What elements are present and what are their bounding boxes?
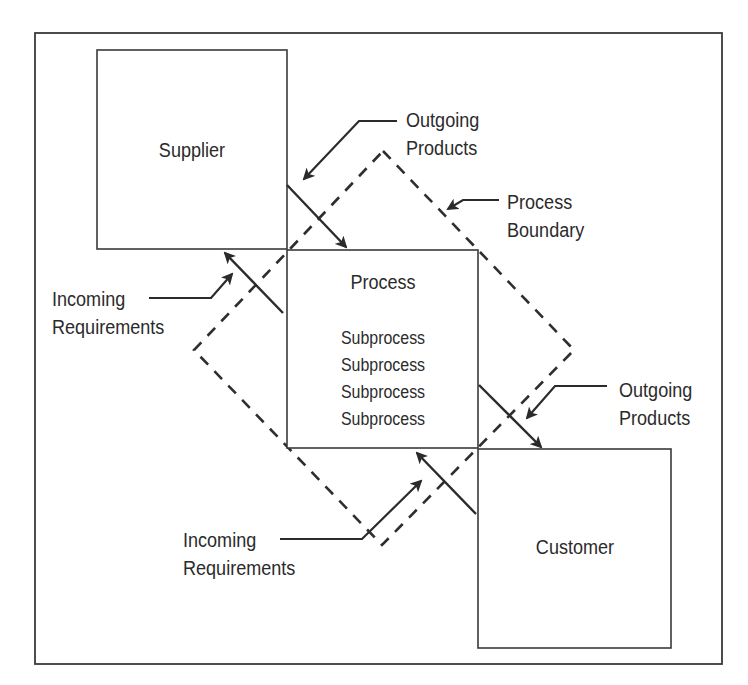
customer-node: Customer [478,449,671,648]
customer-label: Customer [536,535,615,559]
callout-incoming-requirements-left: Incoming Requirements [52,274,232,338]
callout-text-line2: Boundary [507,218,584,242]
callout-text-line1: Outgoing [406,108,479,132]
callout-text-line2: Requirements [183,556,296,580]
supplier-label: Supplier [159,138,226,162]
callout-pointer-arrow [527,386,607,418]
supplier-to-process-arrow [287,185,346,247]
callout-text-line1: Incoming [183,528,256,552]
callout-text-line1: Process [507,190,572,214]
callout-text-line1: Incoming [52,287,125,311]
subprocess-label-4: Subprocess [341,408,425,430]
callout-pointer-arrow [149,274,232,298]
process-to-supplier-arrow [225,253,283,313]
process-to-customer-arrow [479,385,541,447]
customer-to-process-arrow [417,453,476,514]
callout-pointer-arrow [280,481,421,539]
callout-process-boundary: Process Boundary [448,190,584,242]
subprocess-label-2: Subprocess [341,354,425,376]
supplier-node: Supplier [97,50,287,249]
callout-pointer-arrow [448,200,499,209]
callout-text-line2: Requirements [52,315,165,339]
callout-incoming-requirements-bottom: Incoming Requirements [183,481,421,579]
callout-pointer-arrow [304,121,397,179]
callout-text-line2: Products [406,136,477,160]
callout-text-line1: Outgoing [619,378,692,402]
process-label: Process [350,270,415,294]
callout-text-line2: Products [619,406,690,430]
callout-outgoing-products-right: Outgoing Products [527,378,692,430]
process-diagram: Supplier Customer Process Subprocess Sub… [0,0,748,685]
process-node: Process Subprocess Subprocess Subprocess… [287,250,478,448]
callout-outgoing-products-top: Outgoing Products [304,108,479,179]
subprocess-label-3: Subprocess [341,381,425,403]
subprocess-label-1: Subprocess [341,327,425,349]
